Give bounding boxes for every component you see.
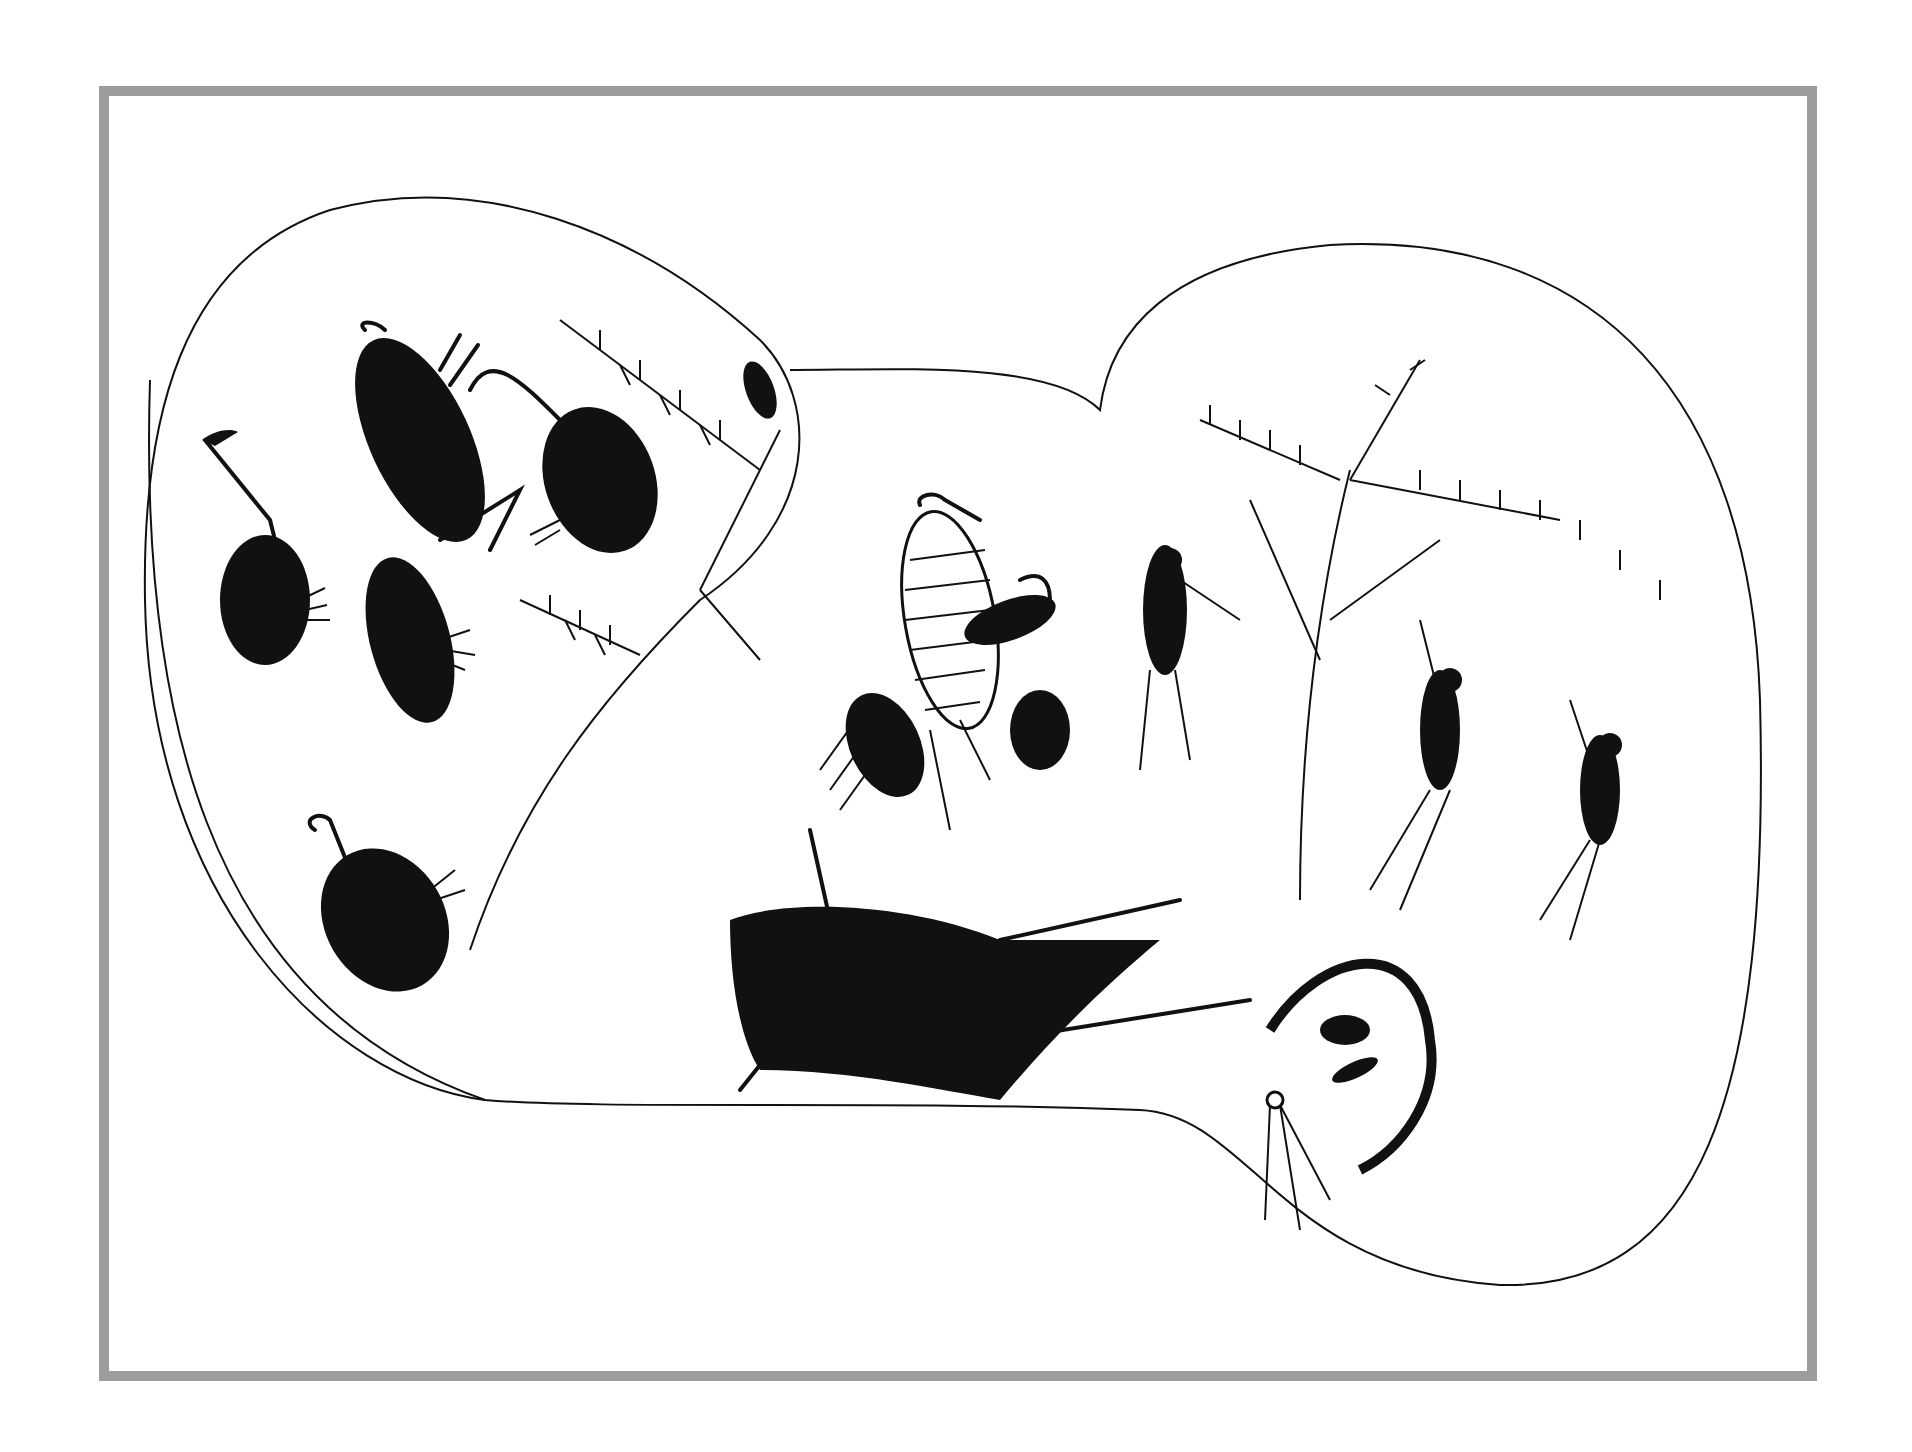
emu-bird-2: [470, 371, 677, 569]
emu-bird-3: [349, 548, 475, 733]
hunter-2: [1370, 620, 1462, 910]
hunter-3: [1540, 700, 1622, 940]
spear-bundle: [1265, 1092, 1330, 1230]
ink-drawing: [0, 0, 1912, 1452]
emu-bird-4: [296, 816, 475, 1015]
shelter-with-figures: [1270, 964, 1432, 1170]
animal-skin: [730, 830, 1250, 1100]
small-bird: [737, 357, 784, 423]
hunter-1: [1140, 545, 1240, 770]
emu-bird-1: [202, 430, 330, 665]
emu-bird-5: [820, 680, 940, 810]
horned-animal: [328, 319, 520, 561]
